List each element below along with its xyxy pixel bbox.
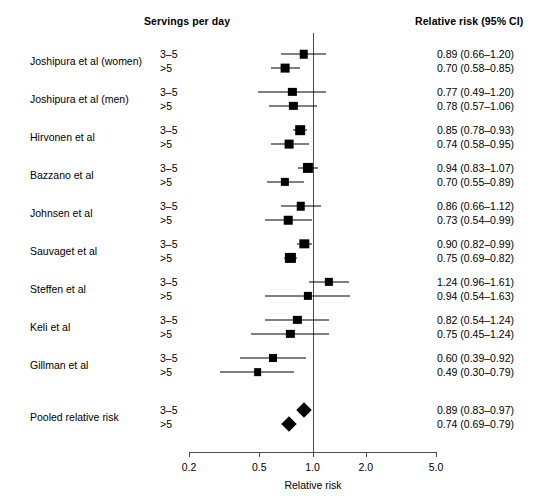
point-estimate-marker — [299, 50, 308, 59]
x-axis-tick-label: 0.5 — [252, 461, 267, 473]
x-axis-tick — [313, 452, 314, 457]
dose-label: 3–5 — [160, 124, 178, 136]
dose-label: 3–5 — [160, 200, 178, 212]
effect-estimate-label: 0.89 (0.83–0.97) — [437, 404, 514, 416]
dose-label: 3–5 — [160, 238, 178, 250]
point-estimate-marker — [254, 368, 262, 376]
dose-label: >5 — [160, 214, 172, 226]
point-estimate-marker — [284, 216, 293, 225]
study-label: Steffen et al — [30, 283, 86, 295]
study-label: Johnsen et al — [30, 207, 92, 219]
point-estimate-marker — [304, 292, 312, 300]
dose-label: 3–5 — [160, 314, 178, 326]
point-estimate-marker — [286, 330, 294, 338]
point-estimate-marker — [285, 253, 295, 263]
x-axis-tick-label: 0.2 — [182, 461, 197, 473]
dose-label: 3–5 — [160, 162, 178, 174]
column-header-relative-risk: Relative risk (95% CI) — [415, 15, 523, 27]
pooled-diamond-marker — [282, 416, 298, 432]
dose-label: 3–5 — [160, 276, 178, 288]
effect-estimate-label: 0.70 (0.58–0.85) — [437, 62, 514, 74]
point-estimate-marker — [325, 278, 333, 286]
x-axis-tick-label: 5.0 — [429, 461, 444, 473]
x-axis-tick — [366, 452, 367, 457]
point-estimate-marker — [293, 316, 301, 324]
effect-estimate-label: 0.74 (0.58–0.95) — [437, 138, 514, 150]
study-label: Joshipura et al (men) — [30, 93, 129, 105]
effect-estimate-label: 0.89 (0.66–1.20) — [437, 48, 514, 60]
dose-label: >5 — [160, 138, 172, 150]
x-axis-tick-label: 1.0 — [305, 461, 320, 473]
effect-estimate-label: 0.78 (0.57–1.06) — [437, 100, 514, 112]
point-estimate-marker — [269, 354, 277, 362]
x-axis-tick — [436, 452, 437, 457]
point-estimate-marker — [289, 102, 297, 110]
effect-estimate-label: 0.77 (0.49–1.20) — [437, 86, 514, 98]
forest-plot: Servings per day Relative risk (95% CI) … — [0, 0, 541, 501]
effect-estimate-label: 0.86 (0.66–1.12) — [437, 200, 514, 212]
x-axis-tick-label: 2.0 — [358, 461, 373, 473]
dose-label: >5 — [160, 418, 172, 430]
dose-label: >5 — [160, 176, 172, 188]
study-label: Bazzano et al — [30, 169, 94, 181]
dose-label: 3–5 — [160, 404, 178, 416]
pooled-diamond-marker — [296, 402, 312, 418]
effect-estimate-label: 0.85 (0.78–0.93) — [437, 124, 514, 136]
study-label: Pooled relative risk — [30, 411, 119, 423]
point-estimate-marker — [295, 125, 305, 135]
point-estimate-marker — [300, 239, 309, 248]
point-estimate-marker — [303, 163, 313, 173]
dose-label: >5 — [160, 252, 172, 264]
effect-estimate-label: 0.70 (0.55–0.89) — [437, 176, 514, 188]
effect-estimate-label: 0.94 (0.54–1.63) — [437, 290, 514, 302]
effect-estimate-label: 0.75 (0.45–1.24) — [437, 328, 514, 340]
column-header-servings: Servings per day — [144, 15, 230, 27]
point-estimate-marker — [285, 140, 294, 149]
point-estimate-marker — [288, 88, 296, 96]
effect-estimate-label: 0.94 (0.83–1.07) — [437, 162, 514, 174]
effect-estimate-label: 0.82 (0.54–1.24) — [437, 314, 514, 326]
study-label: Hirvonen et al — [30, 131, 95, 143]
null-reference-line — [313, 33, 314, 452]
dose-label: >5 — [160, 290, 172, 302]
study-label: Joshipura et al (women) — [30, 55, 142, 67]
effect-estimate-label: 0.90 (0.82–0.99) — [437, 238, 514, 250]
dose-label: 3–5 — [160, 352, 178, 364]
effect-estimate-label: 1.24 (0.96–1.61) — [437, 276, 514, 288]
effect-estimate-label: 0.49 (0.30–0.79) — [437, 366, 514, 378]
study-label: Keli et al — [30, 321, 70, 333]
dose-label: 3–5 — [160, 86, 178, 98]
study-label: Sauvaget et al — [30, 245, 97, 257]
x-axis-tick — [189, 452, 190, 457]
effect-estimate-label: 0.60 (0.39–0.92) — [437, 352, 514, 364]
dose-label: >5 — [160, 100, 172, 112]
x-axis-tick — [259, 452, 260, 457]
point-estimate-marker — [281, 64, 290, 73]
point-estimate-marker — [297, 202, 306, 211]
x-axis-title: Relative risk — [284, 479, 341, 491]
effect-estimate-label: 0.75 (0.69–0.82) — [437, 252, 514, 264]
dose-label: >5 — [160, 366, 172, 378]
effect-estimate-label: 0.74 (0.69–0.79) — [437, 418, 514, 430]
dose-label: >5 — [160, 62, 172, 74]
effect-estimate-label: 0.73 (0.54–0.99) — [437, 214, 514, 226]
point-estimate-marker — [281, 178, 289, 186]
dose-label: 3–5 — [160, 48, 178, 60]
dose-label: >5 — [160, 328, 172, 340]
study-label: Gillman et al — [30, 359, 88, 371]
